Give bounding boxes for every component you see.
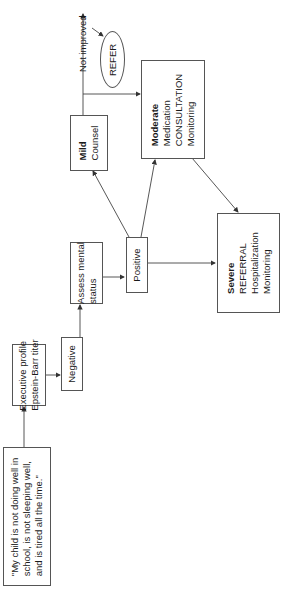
assess-mental-status-box: Assess mental status [70,242,103,304]
positive-box: Positive [126,237,148,293]
not-improved-label: Not improved [77,16,88,73]
severe-box: Severe REFERRAL Hospitalization Monitori… [217,213,280,313]
refer-oval: REFER [100,31,125,88]
executive-profile-box: Executive profile Epstein-Barr titer [12,344,46,406]
moderate-box: Moderate Medication CONSULTATION Monitor… [141,60,205,159]
negative-box: Negative [61,337,83,391]
complaint-text: "My child is not doing well in school, i… [9,457,45,575]
complaint-box: "My child is not doing well in school, i… [3,447,51,586]
mild-box: Mild Counsel [70,115,108,171]
